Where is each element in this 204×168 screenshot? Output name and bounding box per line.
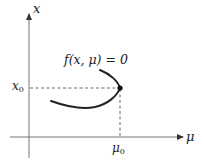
x0-label-sub: 0 xyxy=(19,85,24,94)
mu0-label-sub: 0 xyxy=(120,147,125,156)
fold-point xyxy=(117,85,122,90)
horizontal-axis-label: μ xyxy=(186,130,194,143)
bifurcation-diagram: x μ f(x, μ) = 0 x0 μ0 xyxy=(0,0,204,168)
mu0-label: μ0 xyxy=(112,142,125,156)
curve-label: f(x, μ) = 0 xyxy=(64,54,128,67)
x0-label: x0 xyxy=(12,80,24,94)
x0-label-base: x xyxy=(12,79,19,93)
diagram-graphics xyxy=(0,0,204,168)
mu0-label-base: μ xyxy=(112,141,120,155)
curve-f-zero xyxy=(51,70,120,108)
vertical-axis-label: x xyxy=(33,2,40,15)
